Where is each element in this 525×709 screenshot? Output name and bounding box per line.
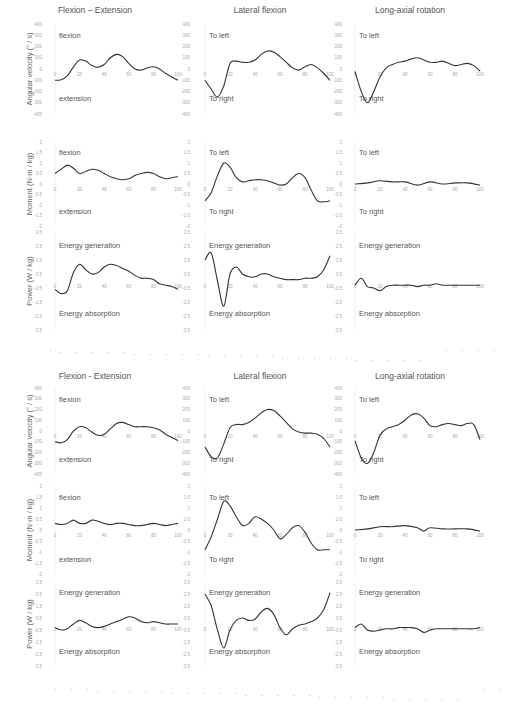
y-axis-label: Angular velocity (° / s) bbox=[25, 394, 34, 468]
data-curve bbox=[55, 165, 178, 180]
y-tick: -0.5 bbox=[182, 539, 190, 544]
y-tick: 200 bbox=[182, 407, 190, 412]
y-tick: -300 bbox=[181, 461, 191, 466]
x-tick: 20 bbox=[77, 627, 83, 632]
y-tick: -1.5 bbox=[34, 213, 42, 218]
y-tick: 400 bbox=[182, 386, 190, 391]
y-tick: -400 bbox=[333, 472, 343, 477]
x-tick: 20 bbox=[377, 284, 383, 289]
x-tick: 100 bbox=[326, 284, 334, 289]
subplot: 4003002001000-100-200-300-40002040608010… bbox=[333, 22, 484, 117]
y-tick: -1.5 bbox=[334, 213, 342, 218]
y-tick: 0.5 bbox=[184, 272, 191, 277]
x-tick: 40 bbox=[252, 533, 258, 538]
y-tick: -3.5 bbox=[334, 328, 342, 333]
y-tick: 1.5 bbox=[36, 604, 43, 609]
negative-direction-label: To right bbox=[209, 94, 235, 103]
subplot: 4003002001000-100-200-300-40002040608010… bbox=[181, 22, 334, 117]
x-tick: 0 bbox=[204, 187, 207, 192]
y-tick: 0.5 bbox=[36, 272, 43, 277]
y-tick: 100 bbox=[334, 55, 342, 60]
y-tick: 1.5 bbox=[336, 604, 343, 609]
x-tick: 60 bbox=[277, 187, 283, 192]
y-axis-label: Power (W / kg) bbox=[25, 599, 34, 649]
negative-direction-label: Energy absorption bbox=[209, 647, 270, 656]
x-tick: 40 bbox=[252, 627, 258, 632]
y-tick: -1 bbox=[38, 550, 42, 555]
x-tick: 20 bbox=[77, 434, 83, 439]
y-tick: 1.5 bbox=[336, 258, 343, 263]
x-tick: 80 bbox=[452, 434, 458, 439]
y-tick: -300 bbox=[33, 461, 43, 466]
y-tick: 0 bbox=[39, 429, 42, 434]
x-tick: 80 bbox=[302, 627, 308, 632]
x-tick: 60 bbox=[427, 533, 433, 538]
x-tick: 20 bbox=[77, 533, 83, 538]
y-tick: 1.5 bbox=[36, 258, 43, 263]
x-tick: 0 bbox=[204, 627, 207, 632]
x-tick: 20 bbox=[377, 187, 383, 192]
y-tick: -100 bbox=[333, 78, 343, 83]
x-tick: 80 bbox=[151, 627, 157, 632]
y-tick: -3.5 bbox=[182, 664, 190, 669]
x-tick: 80 bbox=[302, 187, 308, 192]
y-tick: 2 bbox=[187, 140, 190, 145]
y-tick: 2 bbox=[339, 140, 342, 145]
y-tick: 0.5 bbox=[184, 171, 191, 176]
column-title: Flexion - Extension bbox=[59, 371, 132, 381]
negative-direction-label: Energy absorption bbox=[59, 647, 120, 656]
y-tick: 3.5 bbox=[336, 580, 343, 585]
positive-direction-label: flexion bbox=[59, 148, 81, 157]
negative-direction-label: To right bbox=[209, 455, 235, 464]
subplot: 4003002001000-100-200-300-40002040608010… bbox=[33, 22, 182, 117]
x-tick: 40 bbox=[252, 284, 258, 289]
x-tick: 40 bbox=[102, 72, 108, 77]
data-curve bbox=[205, 593, 330, 648]
y-tick: -1 bbox=[338, 203, 342, 208]
y-tick: -2.5 bbox=[34, 652, 42, 657]
figure-block-top: Flexion – ExtensionLateral flexionLong-a… bbox=[25, 5, 484, 333]
y-tick: 300 bbox=[334, 33, 342, 38]
y-tick: 1 bbox=[187, 161, 190, 166]
y-tick: 2 bbox=[39, 484, 42, 489]
y-tick: -400 bbox=[33, 112, 43, 117]
x-tick: 100 bbox=[326, 187, 334, 192]
data-curve bbox=[355, 181, 480, 185]
x-tick: 60 bbox=[277, 72, 283, 77]
y-tick: 1.5 bbox=[36, 150, 43, 155]
x-tick: 20 bbox=[227, 187, 233, 192]
x-tick: 60 bbox=[277, 284, 283, 289]
x-tick: 0 bbox=[204, 533, 207, 538]
negative-direction-label: Energy absorption bbox=[209, 309, 270, 318]
y-axis-label: Power (W / kg) bbox=[25, 256, 34, 306]
y-tick: 0.5 bbox=[336, 517, 343, 522]
y-tick: 1.5 bbox=[336, 150, 343, 155]
y-tick: 400 bbox=[34, 22, 42, 27]
y-tick: -1.5 bbox=[182, 213, 190, 218]
y-tick: -200 bbox=[181, 450, 191, 455]
y-tick: 1 bbox=[187, 506, 190, 511]
positive-direction-label: To left bbox=[359, 493, 380, 502]
x-tick: 0 bbox=[354, 434, 357, 439]
negative-direction-label: Energy absorption bbox=[359, 647, 420, 656]
y-tick: 400 bbox=[334, 386, 342, 391]
x-tick: 100 bbox=[476, 533, 484, 538]
y-tick: 1 bbox=[39, 506, 42, 511]
y-tick: -2.5 bbox=[182, 314, 190, 319]
subplot: 21.510.50-0.5-1-1.5-2020406080100flexion… bbox=[34, 484, 182, 577]
x-tick: 60 bbox=[126, 434, 132, 439]
positive-direction-label: Energy generation bbox=[209, 588, 270, 597]
x-tick: 60 bbox=[126, 72, 132, 77]
y-tick: 1.5 bbox=[36, 495, 43, 500]
negative-direction-label: Energy absorption bbox=[59, 309, 120, 318]
data-curve bbox=[55, 264, 178, 294]
y-tick: 3.5 bbox=[336, 230, 343, 235]
y-tick: -1.5 bbox=[182, 300, 190, 305]
x-tick: 0 bbox=[54, 187, 57, 192]
y-tick: -1 bbox=[186, 550, 190, 555]
data-curve bbox=[55, 617, 178, 630]
x-tick: 40 bbox=[252, 434, 258, 439]
column-title: Flexion – Extension bbox=[58, 5, 132, 15]
y-tick: -100 bbox=[181, 439, 191, 444]
y-tick: 300 bbox=[182, 396, 190, 401]
